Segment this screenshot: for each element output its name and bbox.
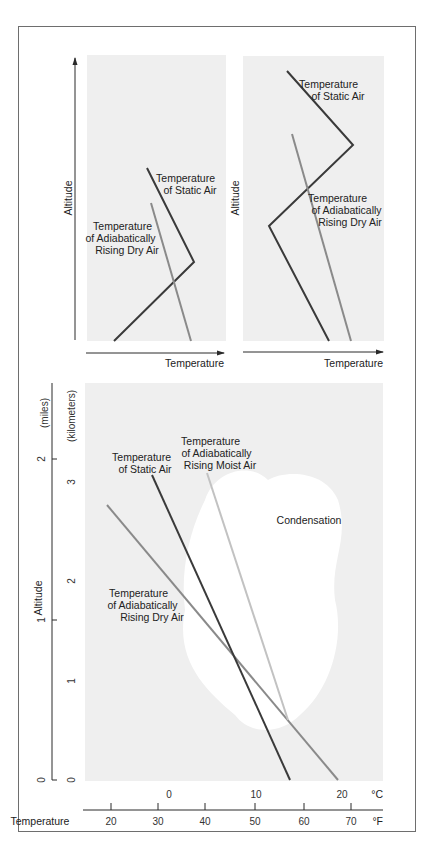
static-air-label: Temperature of Static Air [156,172,218,196]
f-tick-label-30: 30 [152,816,164,827]
miles-unit-label: (miles) [39,398,50,428]
panel-bottom: 0 1 2 (miles) Altitude 0 1 2 3 (kilomete… [11,383,384,827]
condensation-label: Condensation [277,514,342,526]
static-air-label: Temperature of Static Air [112,451,174,475]
altitude-axis-label: Altitude [62,180,74,215]
f-tick-label-20: 20 [105,816,117,827]
diagram-canvas: Altitude Temperature Temperature of Stat… [0,0,428,855]
temperature-axis-label: Temperature [11,815,70,827]
c-tick-label-0: 0 [166,789,172,800]
temperature-axis-label: Temperature [324,357,383,369]
km-unit-label: (kilometers) [66,390,77,442]
km-tick-label-0: 0 [66,777,77,783]
f-tick-label-50: 50 [249,816,261,827]
f-tick-label-70: 70 [345,816,357,827]
celsius-unit: °C [371,788,383,800]
c-tick-label-20: 20 [336,789,348,800]
c-tick-label-10: 10 [250,789,262,800]
miles-tick-label-1: 1 [36,617,47,623]
miles-tick-label-2: 2 [36,456,47,462]
km-tick-label-1: 1 [66,678,77,684]
fahrenheit-unit: °F [372,815,383,827]
km-tick-label-3: 3 [66,479,77,485]
altitude-axis-label: Altitude [229,180,241,215]
panel-top-left: Altitude Temperature Temperature of Stat… [62,55,226,369]
dry-air-label: Temperature of Adiabatically Rising Dry … [86,220,160,256]
km-tick-label-2: 2 [66,578,77,584]
f-tick-label-60: 60 [298,816,310,827]
panel-top-right: Altitude Temperature Temperature of Stat… [229,56,384,369]
miles-tick-label-0: 0 [36,777,47,783]
altitude-axis-label: Altitude [32,580,44,615]
f-tick-label-40: 40 [199,816,211,827]
temperature-axis-label: Temperature [165,357,224,369]
